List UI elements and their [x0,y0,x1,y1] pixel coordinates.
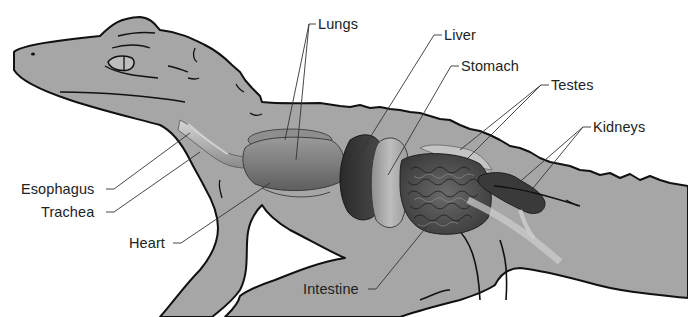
label-testes: Testes [551,77,594,93]
label-trachea: Trachea [41,204,94,220]
label-intestine: Intestine [303,281,359,297]
label-esophagus: Esophagus [21,181,94,197]
label-stomach: Stomach [461,58,519,74]
label-lungs: Lungs [318,16,358,32]
nostril [31,52,35,55]
label-liver: Liver [444,27,476,43]
label-kidneys: Kidneys [593,119,645,135]
label-heart: Heart [129,235,165,251]
crocodile-illustration [0,0,688,317]
intestine-organ [400,154,491,235]
anatomy-diagram: Lungs Liver Stomach Testes Kidneys Esoph… [0,0,688,317]
